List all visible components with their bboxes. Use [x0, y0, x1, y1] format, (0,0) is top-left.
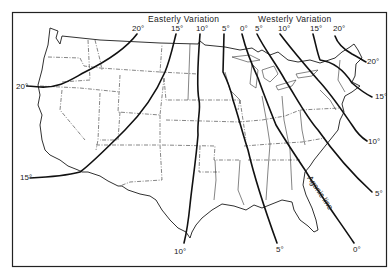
isogonic-label-e5: 5° [222, 24, 230, 33]
isogonic-label-w20: 20° [333, 24, 345, 33]
isogonic-label-e15: 15° [171, 24, 183, 33]
isogonic-label-e10: 10° [196, 24, 208, 33]
isogonic-label-w0: 0° [240, 24, 248, 33]
isogonic-line-w5 [257, 34, 372, 192]
isogonic-line-e10 [184, 34, 200, 243]
isogonic-label-e20: 20° [132, 24, 144, 33]
great-lakes [232, 55, 318, 90]
isogonic-label-w20: 20° [367, 57, 379, 66]
isogonic-label-e5: 5° [276, 245, 284, 254]
isogonic-label-e20: 20° [16, 82, 28, 91]
isogonic-label-e15: 15° [20, 173, 32, 182]
us-coastline [38, 28, 362, 238]
isogonic-label-w10: 10° [368, 137, 380, 146]
westerly-variation-label: Westerly Variation [258, 14, 332, 24]
map-canvas: 20°20°15°15°10°10°5°5°0°0°5°5°10°10°15°1… [0, 0, 392, 273]
isogonic-map: 20°20°15°15°10°10°5°5°0°0°5°5°10°10°15°1… [0, 0, 392, 273]
isogonic-label-w5: 5° [255, 24, 263, 33]
isogonic-label-w5: 5° [375, 189, 383, 198]
easterly-variation-label: Easterly Variation [148, 14, 219, 24]
isogonic-label-w10: 10° [278, 24, 290, 33]
isogonic-label-w15: 15° [310, 24, 322, 33]
isogonic-label-e10: 10° [174, 247, 186, 256]
isogonic-label-w15: 15° [375, 92, 387, 101]
agonic-line-label: Agonic line [305, 174, 335, 212]
isogonic-line-w10 [280, 34, 367, 141]
isogonic-label-w0: 0° [353, 245, 361, 254]
isogonic-lines [27, 34, 372, 243]
isogonic-line-w0 [242, 34, 354, 243]
